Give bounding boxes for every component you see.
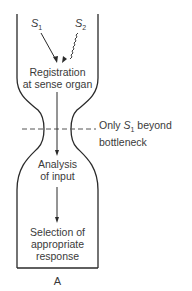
stage-selection: Selection of appropriate response <box>17 226 98 262</box>
stage-analysis-line2: of input <box>17 170 98 182</box>
stage-registration-line2: at sense organ <box>17 78 98 90</box>
bottleneck-label-line2: bottleneck <box>99 136 172 148</box>
bottleneck-label: Only S1 beyond bottleneck <box>99 119 172 148</box>
s2-wavy-arrow <box>70 33 78 59</box>
flow-arrowhead-1 <box>55 150 59 156</box>
s2-arrowhead <box>62 56 67 63</box>
stage-analysis-line1: Analysis <box>17 158 98 170</box>
s1-arrow <box>41 33 56 60</box>
stage-analysis: Analysis of input <box>17 158 98 182</box>
stage-selection-line2: appropriate <box>17 238 98 250</box>
stage-selection-line1: Selection of <box>17 226 98 238</box>
stage-registration-line1: Registration <box>17 66 98 78</box>
stimulus-s2: S2 <box>75 17 86 31</box>
stage-registration: Registration at sense organ <box>17 66 98 90</box>
panel-label: A <box>17 275 98 287</box>
s1-arrowhead <box>53 56 58 63</box>
stage-selection-line3: response <box>17 250 98 262</box>
bottleneck-label-line1: Only S1 beyond <box>99 119 172 136</box>
flow-arrowhead-2 <box>55 217 59 223</box>
stimulus-s1: S1 <box>31 17 42 31</box>
